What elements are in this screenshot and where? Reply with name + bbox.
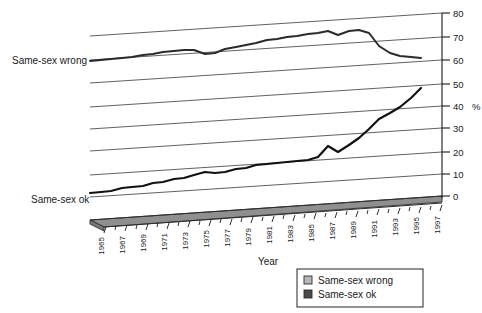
legend-label-same-sex-wrong: Same-sex wrong	[318, 275, 393, 286]
x-tick	[209, 220, 211, 226]
gridline-80	[90, 13, 442, 36]
y-label-80: 80	[453, 8, 464, 19]
same-sex-wrong-label: Same-sex wrong	[12, 55, 87, 66]
x-tick	[293, 215, 295, 221]
x-axis-title: Year	[258, 256, 279, 267]
x-label-1979: 1979	[244, 227, 253, 245]
x-label-1977: 1977	[223, 228, 232, 246]
gridline-30	[90, 128, 442, 151]
x-tick	[188, 221, 190, 227]
x-label-1991: 1991	[370, 219, 379, 237]
x-tick	[251, 217, 253, 223]
x-tick	[335, 212, 337, 218]
chart-container: 80 70 60 50 40 30 20 10 0 % Same-sex wro…	[0, 0, 482, 313]
x-label-1975: 1975	[202, 229, 211, 247]
x-label-1995: 1995	[412, 216, 421, 234]
x-tick	[356, 211, 358, 217]
x-label-1997: 1997	[433, 215, 442, 233]
y-label-0: 0	[453, 191, 458, 202]
x-tick-minor	[430, 206, 431, 210]
x-tick-minor	[220, 219, 221, 223]
x-tick-minor	[388, 209, 389, 213]
floor-top-face	[90, 196, 442, 227]
y-axis	[442, 13, 450, 198]
x-label-1993: 1993	[391, 217, 400, 235]
y-label-20: 20	[453, 147, 464, 158]
x-tick-minor	[409, 207, 410, 211]
floor-back-edge	[90, 196, 442, 220]
legend-label-same-sex-ok: Same-sex ok	[318, 289, 377, 300]
series-line-same-sex-wrong	[90, 30, 421, 61]
x-tick-minor	[262, 217, 263, 221]
series-annotations: Same-sex wrong Same-sex ok	[12, 55, 90, 205]
x-label-1989: 1989	[349, 220, 358, 238]
x-label-1983: 1983	[286, 224, 295, 242]
x-label-1967: 1967	[118, 235, 127, 253]
x-label-1981: 1981	[265, 225, 274, 243]
y-label-60: 60	[453, 55, 464, 66]
x-tick	[230, 219, 232, 225]
x-tick	[314, 213, 316, 219]
x-tick-minor	[346, 211, 347, 215]
x-tick-minor	[304, 214, 305, 218]
x-tick	[440, 205, 442, 211]
x-tick	[419, 207, 421, 213]
x-tick-minor	[199, 221, 200, 225]
x-tick-minor	[178, 222, 179, 226]
line-chart: 80 70 60 50 40 30 20 10 0 % Same-sex wro…	[0, 0, 482, 313]
y-label-70: 70	[453, 32, 464, 43]
chart-floor	[90, 196, 442, 231]
y-axis-labels: 80 70 60 50 40 30 20 10 0 %	[453, 8, 481, 202]
x-tick-minor	[241, 218, 242, 222]
x-tick-minor	[136, 225, 137, 229]
gridline-50	[90, 84, 442, 107]
x-tick-minor	[325, 213, 326, 217]
x-tick	[398, 208, 400, 214]
y-label-50: 50	[453, 79, 464, 90]
gridline-60	[90, 60, 442, 83]
gridline-40	[90, 106, 442, 129]
x-tick	[167, 223, 169, 229]
x-label-1973: 1973	[181, 231, 190, 249]
legend-swatch-same-sex-ok	[304, 290, 312, 298]
x-tick	[146, 224, 148, 230]
x-tick-minor	[283, 215, 284, 219]
x-tick-minor	[367, 210, 368, 214]
x-label-1971: 1971	[160, 232, 169, 250]
y-label-40: 40	[453, 101, 464, 112]
x-label-1965: 1965	[97, 236, 106, 254]
y-label-10: 10	[453, 169, 464, 180]
legend-swatch-same-sex-wrong	[304, 276, 312, 284]
y-axis-unit: %	[472, 101, 481, 112]
x-label-1987: 1987	[328, 221, 337, 239]
x-label-1985: 1985	[307, 223, 316, 241]
x-label-1969: 1969	[139, 233, 148, 251]
same-sex-ok-label: Same-sex ok	[31, 194, 90, 205]
x-tick	[377, 209, 379, 215]
y-label-30: 30	[453, 123, 464, 134]
chart-legend: Same-sex wrong Same-sex ok	[297, 269, 423, 307]
x-tick	[272, 216, 274, 222]
